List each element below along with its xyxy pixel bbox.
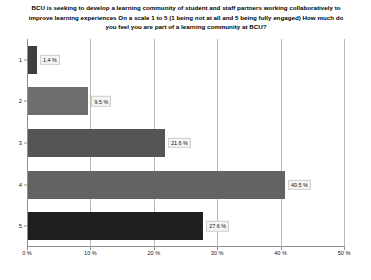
x-tick-label: 10 % <box>84 250 97 256</box>
x-tick-mark <box>281 247 282 250</box>
bar-value-label-1: 1.4 % <box>40 55 60 65</box>
y-tick-mark <box>24 226 27 227</box>
bar-category-3 <box>28 129 165 157</box>
bar-category-4 <box>28 171 285 199</box>
y-tick-mark <box>24 59 27 60</box>
x-tick-mark <box>154 247 155 250</box>
x-tick-mark <box>217 247 218 250</box>
bar-row: 40.5 % <box>28 171 345 199</box>
x-tick-mark <box>27 247 28 250</box>
chart-title: BCU is seeking to develop a learning com… <box>26 3 346 32</box>
y-tick-mark <box>24 101 27 102</box>
bar-category-5 <box>28 212 203 240</box>
x-axis-line <box>27 246 344 247</box>
x-tick-label: 0 % <box>22 250 32 256</box>
x-tick-label: 50 % <box>338 250 351 256</box>
y-tick-label: 4 <box>12 182 22 188</box>
y-tick-mark <box>24 143 27 144</box>
bar-row: 27.6 % <box>28 212 345 240</box>
bar-category-2 <box>28 87 88 115</box>
x-tick-label: 20 % <box>147 250 160 256</box>
plot-area: 1.4 %9.5 %21.6 %40.5 %27.6 % <box>27 39 344 247</box>
x-tick-label: 30 % <box>211 250 224 256</box>
bar-row: 9.5 % <box>28 87 345 115</box>
x-tick-mark <box>90 247 91 250</box>
bar-row: 1.4 % <box>28 46 345 74</box>
y-tick-label: 1 <box>12 57 22 63</box>
chart-title-line-1: BCU is seeking to develop a learning com… <box>26 3 346 13</box>
bar-value-label-3: 21.6 % <box>168 138 191 148</box>
y-tick-label: 5 <box>12 223 22 229</box>
bar-value-label-4: 40.5 % <box>288 179 311 189</box>
bar-row: 21.6 % <box>28 129 345 157</box>
y-tick-label: 3 <box>12 140 22 146</box>
bar-value-label-2: 9.5 % <box>91 96 111 106</box>
y-tick-mark <box>24 184 27 185</box>
chart-figure: BCU is seeking to develop a learning com… <box>0 0 371 280</box>
x-tick-mark <box>344 247 345 250</box>
bar-value-label-5: 27.6 % <box>206 221 229 231</box>
x-tick-label: 40 % <box>274 250 287 256</box>
chart-title-line-2: improve learning experiences On a scale … <box>26 13 346 23</box>
y-tick-label: 2 <box>12 98 22 104</box>
chart-title-line-3: you feel you are part of a learning comm… <box>26 22 346 32</box>
bar-category-1 <box>28 46 37 74</box>
